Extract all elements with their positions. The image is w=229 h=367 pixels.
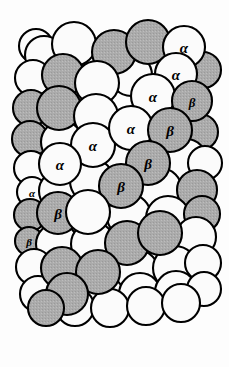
figure-container: αααβααβαβαβββ (0, 0, 229, 367)
site-label-alpha: α (127, 121, 136, 137)
site-label-alpha: α (89, 138, 98, 154)
site-label-beta: β (188, 95, 196, 110)
sphere-white (66, 190, 110, 234)
sphere-white (162, 284, 200, 322)
sphere-canvas: αααβααβαβαβββ (0, 0, 229, 367)
site-label-alpha: α (149, 89, 158, 105)
sphere-stacking-diagram: αααβααβαβαβββ (0, 0, 229, 367)
site-label-beta: β (143, 156, 152, 172)
site-label-alpha: α (180, 40, 189, 56)
site-label-alpha: α (172, 67, 181, 83)
site-label-beta: β (116, 179, 125, 195)
sphere-gray (28, 290, 64, 326)
site-label-beta: β (53, 206, 62, 222)
sphere-white (127, 287, 165, 325)
site-label-beta: β (165, 123, 174, 139)
sphere-gray (138, 211, 182, 255)
site-label-alpha: α (56, 157, 65, 173)
site-label-beta: β (25, 236, 32, 248)
site-label-alpha: α (29, 187, 36, 199)
